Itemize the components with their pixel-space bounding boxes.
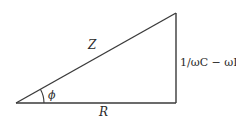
hypotenuse-z <box>16 13 176 103</box>
angle-arc <box>40 89 44 103</box>
label-phi: ϕ <box>48 90 56 101</box>
label-reactance: 1/ωC − ωL <box>180 57 236 68</box>
label-z: Z <box>88 39 96 51</box>
label-r: R <box>99 106 108 118</box>
